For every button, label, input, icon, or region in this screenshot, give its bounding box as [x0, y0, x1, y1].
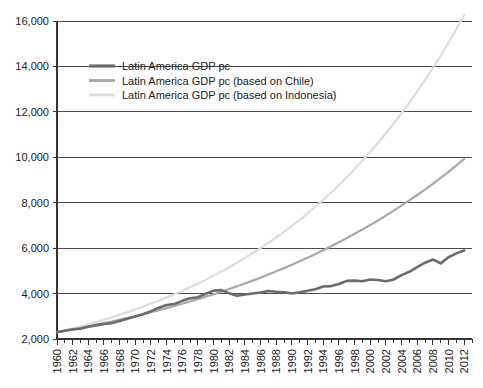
x-tick-label: 1994 — [317, 349, 329, 373]
y-tick-label: 6,000 — [21, 242, 49, 254]
x-tick-label: 1982 — [223, 349, 235, 373]
x-tick-label: 1986 — [255, 349, 267, 373]
y-tick-label: 10,000 — [15, 151, 49, 163]
y-tick-label: 14,000 — [15, 60, 49, 72]
x-tick-label: 1992 — [302, 349, 314, 373]
x-tick-label: 1998 — [349, 349, 361, 373]
x-tick-label: 1964 — [82, 349, 94, 373]
x-tick-label: 1960 — [51, 349, 63, 373]
x-tick-label: 1990 — [286, 349, 298, 373]
legend-label: Latin America GDP pc — [122, 60, 231, 72]
x-tick-label: 2012 — [458, 349, 470, 373]
legend-label: Latin America GDP pc (based on Indonesia… — [122, 89, 336, 101]
chart-container: 16,00014,00012,00010,0008,0006,0004,0002… — [0, 0, 483, 388]
x-tick-label: 1976 — [176, 349, 188, 373]
x-tick-label: 2004 — [396, 349, 408, 373]
series-line-indonesia — [57, 15, 464, 332]
y-tick-label: 2,000 — [21, 333, 49, 345]
y-tick-label: 16,000 — [15, 15, 49, 27]
x-tick-label: 1984 — [239, 349, 251, 373]
x-tick-label: 1972 — [145, 349, 157, 373]
x-tick-label: 1978 — [192, 349, 204, 373]
legend-label: Latin America GDP pc (based on Chile) — [122, 75, 314, 87]
x-tick-label: 1988 — [270, 349, 282, 373]
x-tick-label: 1966 — [98, 349, 110, 373]
x-tick-label: 1996 — [333, 349, 345, 373]
series-group — [57, 15, 464, 332]
line-chart: 16,00014,00012,00010,0008,0006,0004,0002… — [0, 0, 483, 388]
x-tick-label: 2010 — [443, 349, 455, 373]
x-tick-label: 2002 — [380, 349, 392, 373]
y-tick-label: 12,000 — [15, 106, 49, 118]
y-tick-label: 4,000 — [21, 288, 49, 300]
x-tick-label: 1968 — [114, 349, 126, 373]
x-tick-label: 1974 — [161, 349, 173, 373]
x-tick-label: 2000 — [364, 349, 376, 373]
x-tick-label: 1962 — [67, 349, 79, 373]
x-tick-label: 1970 — [129, 349, 141, 373]
x-tick-label: 2008 — [427, 349, 439, 373]
y-tick-label: 8,000 — [21, 197, 49, 209]
x-axis-ticks: 1960196219641966196819701972197419761978… — [51, 339, 472, 373]
series-line-chile — [57, 159, 464, 332]
x-tick-label: 2006 — [411, 349, 423, 373]
x-tick-label: 1980 — [208, 349, 220, 373]
